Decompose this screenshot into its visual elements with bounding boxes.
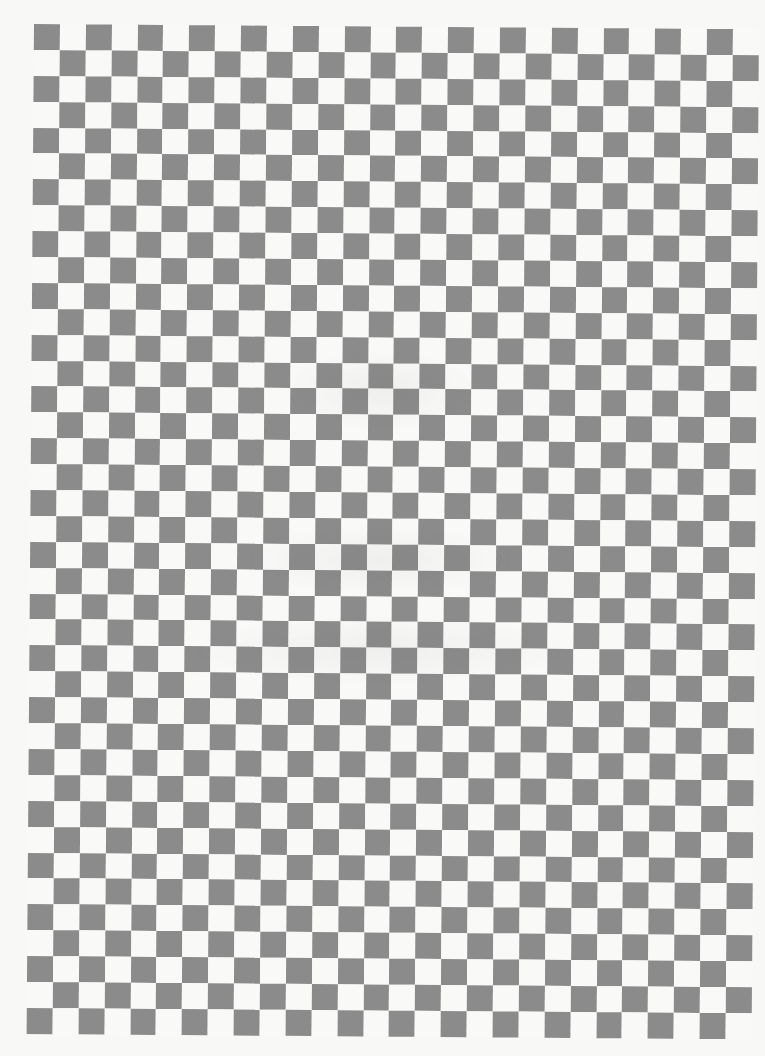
dark-square: [56, 464, 82, 490]
dark-square: [342, 337, 368, 363]
light-square: [288, 673, 314, 699]
dark-square: [163, 103, 189, 129]
dark-square: [546, 753, 572, 779]
dark-square: [210, 673, 236, 699]
light-square: [732, 133, 758, 159]
dark-square: [597, 960, 623, 986]
light-square: [156, 1009, 182, 1035]
light-square: [499, 209, 525, 235]
light-square: [341, 466, 367, 492]
light-square: [238, 466, 264, 492]
light-square: [417, 700, 443, 726]
dark-square: [344, 78, 370, 104]
light-square: [395, 208, 421, 234]
light-square: [111, 128, 137, 154]
light-square: [236, 673, 262, 699]
dark-square: [212, 465, 238, 491]
light-square: [624, 702, 650, 728]
light-square: [311, 1010, 337, 1036]
light-square: [109, 387, 135, 413]
light-square: [550, 313, 576, 339]
light-square: [107, 646, 133, 672]
dark-square: [160, 517, 186, 543]
dark-square: [704, 443, 730, 469]
dark-square: [443, 752, 469, 778]
light-square: [394, 311, 420, 337]
light-square: [447, 156, 473, 182]
dark-square: [185, 595, 211, 621]
light-square: [366, 648, 392, 674]
light-square: [30, 516, 56, 542]
light-square: [342, 363, 368, 389]
light-square: [369, 234, 395, 260]
light-square: [209, 906, 235, 932]
dark-square: [111, 154, 137, 180]
dark-square: [600, 546, 626, 572]
light-square: [522, 545, 548, 571]
light-square: [652, 417, 678, 443]
dark-square: [700, 961, 726, 987]
dark-square: [137, 25, 163, 51]
dark-square: [33, 128, 59, 154]
dark-square: [389, 959, 415, 985]
light-square: [163, 25, 189, 51]
dark-square: [497, 442, 523, 468]
light-square: [577, 80, 603, 106]
dark-square: [444, 545, 470, 571]
light-square: [342, 311, 368, 337]
dark-square: [339, 803, 365, 829]
light-square: [574, 442, 600, 468]
light-square: [315, 544, 341, 570]
light-square: [107, 698, 133, 724]
dark-square: [732, 159, 758, 185]
dark-square: [162, 258, 188, 284]
light-square: [81, 620, 107, 646]
light-square: [29, 619, 55, 645]
light-square: [265, 233, 291, 259]
dark-square: [241, 26, 267, 52]
dark-square: [81, 646, 107, 672]
light-square: [629, 80, 655, 106]
dark-square: [131, 905, 157, 931]
dark-square: [654, 184, 680, 210]
dark-square: [577, 106, 603, 132]
dark-square: [109, 413, 135, 439]
dark-square: [498, 235, 524, 261]
dark-square: [472, 260, 498, 286]
dark-square: [444, 597, 470, 623]
dark-square: [421, 208, 447, 234]
dark-square: [548, 546, 574, 572]
dark-square: [340, 699, 366, 725]
light-square: [523, 390, 549, 416]
dark-square: [395, 234, 421, 260]
dark-square: [234, 1009, 260, 1035]
light-square: [675, 909, 701, 935]
light-square: [701, 883, 727, 909]
light-square: [474, 27, 500, 53]
light-square: [546, 830, 572, 856]
dark-square: [441, 959, 467, 985]
dark-square: [731, 314, 757, 340]
light-square: [547, 623, 573, 649]
light-square: [622, 960, 648, 986]
dark-square: [552, 28, 578, 54]
dark-square: [700, 1013, 726, 1039]
dark-square: [391, 752, 417, 778]
dark-square: [521, 675, 547, 701]
light-square: [649, 831, 675, 857]
light-square: [364, 907, 390, 933]
light-square: [390, 829, 416, 855]
light-square: [444, 519, 470, 545]
dark-square: [370, 104, 396, 130]
dark-square: [54, 775, 80, 801]
light-square: [500, 53, 526, 79]
light-square: [598, 727, 624, 753]
light-square: [419, 441, 445, 467]
dark-square: [368, 311, 394, 337]
dark-square: [134, 439, 160, 465]
light-square: [704, 469, 730, 495]
light-square: [104, 1008, 130, 1034]
dark-square: [262, 621, 288, 647]
dark-square: [163, 51, 189, 77]
dark-square: [134, 543, 160, 569]
